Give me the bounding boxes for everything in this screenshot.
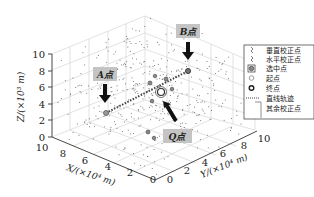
legend-label: 水平校正点: [266, 55, 301, 64]
y-tick: 2: [184, 165, 190, 176]
legend-label: 垂直校正点: [266, 46, 301, 55]
z-axis-label: Z/(×10³ m): [16, 71, 26, 123]
callout-b-label: B点: [179, 27, 199, 37]
scatter3d-chart: 10 8 6 4 2 0 Z/(×10³ m) 10 8 6 4 2 0 X/(…: [0, 0, 314, 197]
x-tick: 8: [60, 148, 66, 159]
arrow-up-icon: [163, 101, 176, 121]
z-tick: 6: [39, 82, 45, 93]
y-tick: 0: [167, 174, 173, 185]
x-tick: 10: [36, 142, 49, 153]
z-tick-labels: 10 8 6 4 2 0: [32, 49, 45, 143]
end-point-b: [186, 69, 191, 74]
legend-label: 直线轨迹: [266, 94, 294, 103]
legend-label: 终点: [266, 84, 280, 93]
start-point-a: [104, 111, 109, 116]
z-tick: 2: [39, 115, 45, 126]
y-tick: 6: [220, 148, 226, 159]
x-tick: 0: [150, 174, 156, 185]
z-tick: 10: [32, 49, 45, 60]
callout-a-label: A点: [96, 70, 115, 80]
x-tick: 4: [105, 161, 111, 172]
legend: 垂直校正点 水平校正点 选中点 起点 终点 直线轨迹 其余校正点: [244, 45, 314, 119]
arrow-down-icon: [99, 84, 111, 103]
legend-label: 选中点: [266, 64, 287, 73]
y-tick: 10: [258, 133, 271, 144]
y-tick: 8: [241, 140, 247, 151]
legend-label: 其余校正点: [266, 104, 301, 113]
x-tick: 2: [127, 167, 133, 178]
callout-q-label: Q点: [169, 132, 188, 142]
z-tick: 8: [39, 66, 45, 77]
z-tick: 4: [39, 99, 45, 110]
arrow-down-icon: [182, 42, 194, 60]
x-tick: 6: [82, 155, 88, 166]
legend-label: 起点: [266, 75, 280, 83]
